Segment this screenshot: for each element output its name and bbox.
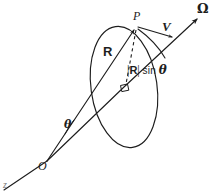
- label-point-p: P: [133, 10, 140, 22]
- label-radius-vector-r: R: [103, 45, 112, 58]
- theta-symbol: θ: [159, 63, 167, 77]
- diagram-canvas: [0, 0, 214, 194]
- label-origin-o: O: [38, 160, 47, 172]
- label-angle-theta: θ: [64, 119, 71, 130]
- rotation-axis-line: [4, 19, 197, 190]
- abs-bar-close: |: [137, 63, 139, 77]
- label-velocity-v: V: [162, 20, 171, 33]
- label-omega: Ω: [197, 2, 209, 15]
- label-perpendicular-distance: |R| sin θ: [127, 64, 167, 76]
- label-axis-tail: z: [3, 180, 7, 190]
- right-angle-marker: [121, 84, 129, 92]
- position-vector-R: [47, 30, 134, 161]
- sin-function-text: sin: [143, 65, 156, 76]
- vector-diagram-figure: Ω P V R |R| sin θ θ O z: [0, 0, 214, 194]
